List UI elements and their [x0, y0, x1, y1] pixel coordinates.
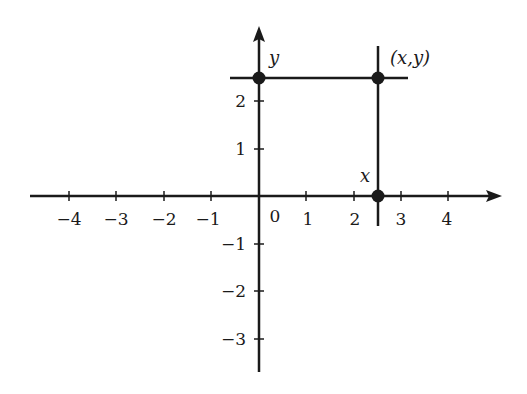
y-tick-label: −2 — [221, 281, 246, 301]
point-label: (x,y) — [390, 47, 430, 68]
x-tick-label: 4 — [442, 209, 453, 229]
y-tick-label: −3 — [221, 329, 246, 349]
x-intercept-point — [372, 190, 385, 203]
y-tick-label: 2 — [235, 91, 246, 111]
x-tick-label: −1 — [195, 209, 220, 229]
x-projection-label: x — [360, 165, 370, 186]
origin-label: 0 — [270, 206, 281, 226]
xy-point — [372, 72, 385, 85]
x-tick-label: −2 — [151, 209, 176, 229]
x-tick-label: 1 — [303, 209, 314, 229]
x-tick-label: 2 — [350, 209, 361, 229]
y-projection-label: y — [268, 47, 280, 68]
x-tick-label: 3 — [396, 209, 407, 229]
x-tick-label: −4 — [56, 209, 81, 229]
y-intercept-point — [253, 72, 266, 85]
coordinate-plane: −4 −3 −2 −1 0 1 2 3 4 2 1 −1 −2 −3 y x (… — [0, 0, 527, 394]
y-tick-label: −1 — [221, 234, 246, 254]
y-tick-label: 1 — [235, 139, 246, 159]
x-tick-label: −3 — [103, 209, 128, 229]
